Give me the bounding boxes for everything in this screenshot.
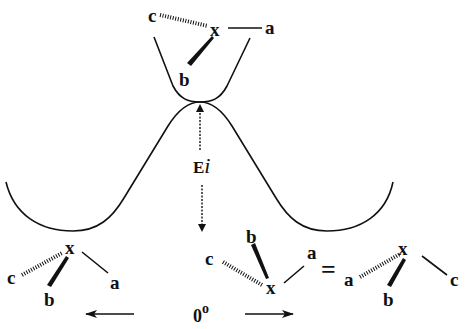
hashed-bond-c [223, 262, 262, 285]
diagram-canvas: Ei x a c b x a c b b c x a = a x [0, 0, 469, 329]
energy-label: Ei [193, 153, 210, 178]
molecule-bottom-right: a x c b [344, 238, 458, 310]
atom-x: x [266, 277, 276, 298]
atom-a: a [344, 269, 354, 290]
equals-sign: = [321, 255, 336, 284]
molecule-bottom-middle: b c x a [205, 226, 317, 298]
atom-b: b [179, 69, 190, 90]
atom-b: b [44, 289, 55, 310]
molecule-top: x a c b [148, 5, 275, 90]
atom-a: a [307, 242, 317, 263]
wedge-bond-b [251, 243, 269, 279]
bond-a [82, 252, 108, 273]
atom-a: a [110, 272, 120, 293]
atom-x: x [398, 238, 408, 259]
angle-label: 0o [193, 301, 209, 326]
energy-diagram: Ei x a c b x a c b b c x a = a x [0, 0, 469, 329]
atom-x: x [65, 237, 75, 258]
wedge-bond-b [187, 36, 214, 66]
atom-c: c [148, 5, 156, 26]
atom-a: a [265, 17, 275, 38]
hashed-bond-c [160, 15, 208, 26]
atom-c: c [205, 248, 213, 269]
atom-b: b [383, 289, 394, 310]
wedge-bond-b [387, 258, 406, 287]
atom-c: c [450, 269, 458, 290]
molecule-bottom-left: x a c b [7, 237, 120, 310]
bond-c [422, 256, 447, 275]
bond-a [284, 266, 304, 283]
atom-c: c [7, 267, 15, 288]
transition-state-well [154, 37, 250, 102]
